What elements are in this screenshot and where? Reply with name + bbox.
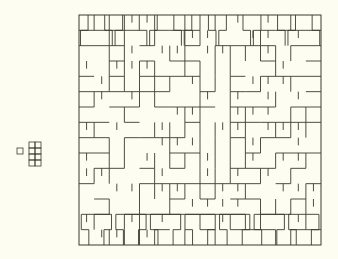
small-piece: [17, 142, 41, 166]
tiled-square: [79, 15, 321, 245]
tiling-diagram: [0, 0, 338, 259]
